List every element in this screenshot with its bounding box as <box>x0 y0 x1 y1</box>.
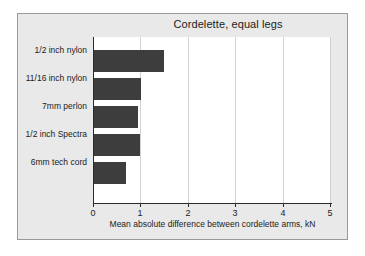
x-tick-mark-0 <box>93 203 94 207</box>
bar-3[interactable] <box>93 134 140 156</box>
x-tick-mark-5 <box>330 203 331 207</box>
x-tick-label-4: 4 <box>273 208 293 218</box>
chart-title: Cordelette, equal legs <box>110 18 346 30</box>
x-tick-label-1: 1 <box>130 208 150 218</box>
y-tick-label-1: 11/16 inch nylon <box>0 73 87 83</box>
bar-2[interactable] <box>93 106 138 128</box>
gridline-2 <box>188 37 189 203</box>
y-tick-label-0: 1/2 inch nylon <box>0 45 87 55</box>
x-tick-label-5: 5 <box>320 208 340 218</box>
bar-0[interactable] <box>93 50 164 72</box>
x-tick-label-0: 0 <box>83 208 103 218</box>
gridline-4 <box>283 37 284 203</box>
y-tick-label-4: 6mm tech cord <box>0 157 87 167</box>
x-tick-mark-3 <box>235 203 236 207</box>
x-axis-label: Mean absolute difference between cordele… <box>93 219 332 229</box>
x-tick-mark-2 <box>188 203 189 207</box>
gridline-5 <box>330 37 331 203</box>
x-axis-line <box>93 203 332 204</box>
chart-figure-frame: Cordelette, equal legs 0 1 2 3 4 5 1/2 i… <box>17 13 348 240</box>
bar-4[interactable] <box>93 162 126 184</box>
x-tick-label-2: 2 <box>178 208 198 218</box>
x-tick-mark-1 <box>140 203 141 207</box>
plot-area <box>93 37 331 203</box>
y-tick-label-2: 7mm perlon <box>0 101 87 111</box>
x-tick-mark-4 <box>283 203 284 207</box>
bar-1[interactable] <box>93 78 141 100</box>
y-axis-line <box>93 37 94 203</box>
y-tick-label-3: 1/2 inch Spectra <box>0 129 87 139</box>
x-tick-label-3: 3 <box>225 208 245 218</box>
gridline-3 <box>235 37 236 203</box>
